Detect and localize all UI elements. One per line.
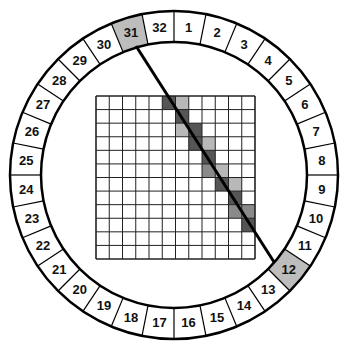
segment-label-19: 19 bbox=[97, 298, 111, 313]
segment-label-16: 16 bbox=[181, 315, 195, 330]
segment-label-26: 26 bbox=[25, 124, 39, 139]
segment-divider bbox=[304, 143, 334, 149]
segment-label-8: 8 bbox=[318, 153, 325, 168]
segment-label-5: 5 bbox=[285, 73, 292, 88]
segment-label-24: 24 bbox=[19, 182, 34, 197]
segment-label-28: 28 bbox=[52, 73, 66, 88]
segment-label-15: 15 bbox=[210, 310, 224, 325]
segment-label-30: 30 bbox=[97, 37, 111, 52]
segment-divider bbox=[22, 112, 51, 124]
segment-label-13: 13 bbox=[261, 282, 275, 297]
inner-ring-circle bbox=[41, 42, 307, 308]
shaded-cell-r3-c8 bbox=[202, 137, 215, 151]
segment-divider bbox=[13, 201, 43, 207]
segment-label-31: 31 bbox=[124, 25, 138, 40]
segment-label-20: 20 bbox=[73, 282, 87, 297]
segment-divider bbox=[248, 39, 265, 65]
segment-label-2: 2 bbox=[213, 25, 220, 40]
segment-label-27: 27 bbox=[36, 97, 50, 112]
segment-label-6: 6 bbox=[301, 97, 308, 112]
segment-divider bbox=[304, 201, 334, 207]
projection-ray-line bbox=[136, 46, 274, 262]
shaded-cell-r0-c6 bbox=[176, 96, 189, 110]
ray-projection-diagram: 1234567891011121314151617181920212223242… bbox=[0, 0, 348, 350]
segment-label-32: 32 bbox=[152, 20, 166, 35]
segment-label-11: 11 bbox=[298, 238, 312, 253]
segment-divider bbox=[22, 226, 51, 238]
ring-segment-dividers bbox=[10, 11, 338, 339]
segment-label-23: 23 bbox=[25, 211, 39, 226]
segment-divider bbox=[111, 298, 123, 327]
segment-label-9: 9 bbox=[318, 182, 325, 197]
segment-divider bbox=[297, 112, 326, 124]
segment-label-7: 7 bbox=[312, 124, 319, 139]
segment-divider bbox=[297, 226, 326, 238]
segment-label-21: 21 bbox=[52, 262, 66, 277]
segment-divider bbox=[225, 298, 237, 327]
segment-label-17: 17 bbox=[152, 315, 166, 330]
pixel-grid-lines bbox=[96, 96, 255, 259]
segment-divider bbox=[142, 305, 148, 335]
segment-divider bbox=[225, 23, 237, 52]
segment-divider bbox=[200, 14, 206, 44]
segment-label-22: 22 bbox=[36, 238, 50, 253]
segment-label-18: 18 bbox=[124, 310, 138, 325]
diagram-stage: 1234567891011121314151617181920212223242… bbox=[0, 0, 348, 350]
segment-divider bbox=[200, 305, 206, 335]
segment-label-3: 3 bbox=[240, 37, 247, 52]
segment-label-10: 10 bbox=[309, 211, 323, 226]
segment-label-12: 12 bbox=[282, 262, 296, 277]
segment-label-29: 29 bbox=[73, 53, 87, 68]
segment-divider bbox=[13, 143, 43, 149]
segment-label-14: 14 bbox=[237, 298, 252, 313]
segment-label-4: 4 bbox=[265, 53, 273, 68]
segment-label-25: 25 bbox=[19, 153, 33, 168]
shaded-cell-r6-c10 bbox=[229, 178, 242, 192]
segment-label-1: 1 bbox=[185, 20, 192, 35]
